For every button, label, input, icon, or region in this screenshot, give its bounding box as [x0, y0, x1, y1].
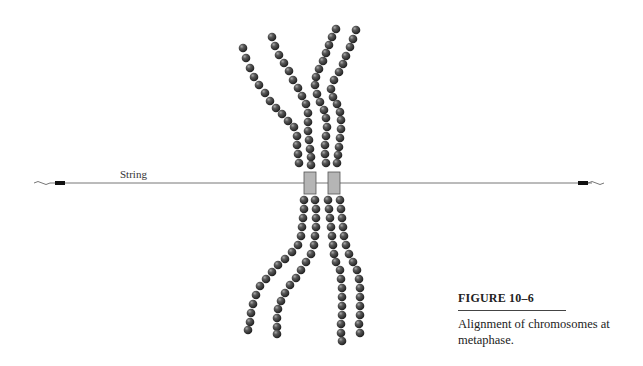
bead [353, 266, 362, 275]
string-left-end [55, 181, 65, 185]
bead [337, 205, 346, 214]
bead [262, 275, 271, 284]
bead [356, 311, 365, 320]
bead [244, 326, 253, 335]
bead [304, 109, 313, 118]
bead [249, 300, 258, 309]
bead [246, 64, 255, 73]
string-right-end [578, 181, 588, 185]
bead [261, 89, 270, 98]
bead [337, 116, 346, 125]
bead [302, 100, 311, 109]
bead [311, 81, 320, 90]
bead [307, 161, 316, 170]
bead [281, 255, 290, 264]
bead [338, 311, 347, 320]
bead [312, 73, 321, 82]
bead [285, 67, 294, 76]
bead [274, 261, 283, 270]
bead [336, 108, 345, 117]
bead [266, 97, 275, 106]
bead [324, 196, 333, 205]
bead [339, 60, 348, 69]
bead [315, 65, 324, 74]
bead [333, 100, 342, 109]
bead [307, 250, 316, 259]
bead [346, 43, 355, 52]
bead [322, 132, 331, 141]
bead [338, 337, 347, 346]
bead [338, 293, 347, 302]
bead [356, 302, 365, 311]
bead [336, 134, 345, 143]
bead [321, 150, 330, 159]
bead [325, 205, 334, 214]
bead [337, 125, 346, 134]
spindle-string [34, 181, 604, 185]
bead [302, 258, 311, 267]
bead [355, 320, 364, 329]
bead [349, 35, 358, 44]
bead [281, 289, 290, 298]
bead [332, 25, 341, 34]
bead [246, 318, 255, 327]
bead [337, 275, 346, 284]
bead [293, 141, 302, 150]
bead [242, 54, 251, 63]
bead [356, 284, 365, 293]
bead [310, 241, 319, 250]
bead [292, 274, 301, 283]
bead [277, 297, 286, 306]
chromatid-upper-left-inner [268, 33, 316, 170]
bead [297, 232, 306, 241]
bead [268, 268, 277, 277]
bead [345, 250, 354, 259]
bead [329, 241, 338, 250]
bead [338, 302, 347, 311]
bead [328, 232, 337, 241]
bead [293, 132, 302, 141]
bead [300, 205, 309, 214]
bead [338, 284, 347, 293]
bead [278, 110, 287, 119]
bead [330, 76, 339, 85]
bead [322, 49, 331, 58]
bead [319, 57, 328, 66]
kinetochore-2 [328, 172, 340, 194]
bead [271, 42, 280, 51]
bead [305, 136, 314, 145]
bead [340, 232, 349, 241]
bead [300, 196, 309, 205]
bead [352, 26, 361, 35]
bead [268, 33, 277, 42]
chromatids [239, 25, 365, 346]
bead [288, 248, 297, 257]
bead [322, 114, 331, 123]
bead [355, 275, 364, 284]
bead [294, 150, 303, 159]
bead [295, 159, 304, 168]
bead [256, 282, 265, 291]
bead [280, 59, 289, 68]
bead [294, 84, 303, 93]
figure-caption: FIGURE 10–6 Alignment of chromosomes at … [458, 291, 638, 348]
bead [332, 258, 341, 267]
bead [338, 214, 347, 223]
bead [333, 159, 342, 168]
bead [311, 232, 320, 241]
bead [286, 281, 295, 290]
bead [307, 153, 316, 162]
chromatid-upper-left-outer [239, 44, 304, 168]
bead [299, 214, 308, 223]
bead [320, 106, 329, 115]
bead [327, 223, 336, 232]
bead [335, 143, 344, 152]
bead [250, 73, 259, 82]
bead [342, 52, 351, 61]
bead [312, 214, 321, 223]
bead [275, 51, 284, 60]
bead [316, 98, 325, 107]
bead [312, 223, 321, 232]
bead [298, 223, 307, 232]
bead [311, 196, 320, 205]
